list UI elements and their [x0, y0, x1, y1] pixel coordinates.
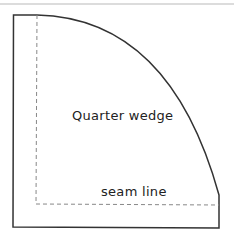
wedge-label: Quarter wedge	[72, 108, 173, 123]
seam-line-label: seam line	[101, 184, 167, 199]
